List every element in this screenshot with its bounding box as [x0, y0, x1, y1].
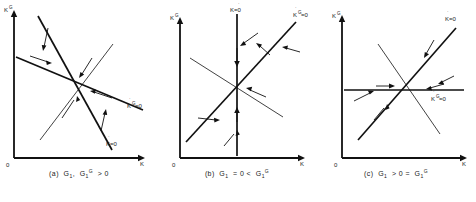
arrow-left-shaft	[30, 56, 48, 62]
arrow-top-shaft	[244, 33, 258, 43]
label-kgdot-zero-b: · K G =0	[293, 5, 309, 18]
arrow-down-head	[234, 61, 240, 67]
curve-kgdot-zero	[16, 57, 143, 110]
arrow-right-shaft	[430, 84, 444, 88]
arrow-up-head	[234, 107, 240, 113]
panel-c-plot: K G K 0	[316, 0, 476, 170]
svg-text:K: K	[127, 103, 131, 109]
y-axis-label-sup: G	[9, 5, 13, 10]
label-kdot-zero-a: · K=0	[106, 134, 118, 147]
panel-c-arrows	[354, 40, 454, 120]
caption-sub1: 1	[225, 173, 228, 179]
svg-text:·: ·	[238, 1, 240, 6]
panel-a: K G K 0	[0, 0, 158, 202]
arrow-left-head	[46, 60, 52, 65]
caption-sup2: G	[265, 168, 269, 174]
caption-sep: ,	[73, 170, 75, 177]
y-axis-label: K	[332, 13, 336, 19]
svg-text:K=0: K=0	[106, 141, 118, 147]
svg-text:K: K	[293, 12, 297, 18]
caption-relation: > 0	[98, 170, 109, 177]
panel-a-plot: K G K 0	[0, 0, 158, 170]
curve-kgdot-zero	[186, 22, 296, 142]
svg-text:=0: =0	[135, 103, 143, 109]
svg-text:K: K	[431, 96, 435, 102]
arrow-upper-head	[42, 45, 47, 51]
arrow-center-right-shaft	[250, 90, 266, 97]
arrow-bottom-shaft	[224, 134, 234, 146]
svg-text:K=0: K=0	[445, 16, 457, 22]
panel-b-arrows	[198, 33, 300, 146]
panel-a-axes	[11, 10, 145, 161]
svg-text:·: ·	[447, 9, 449, 14]
arrow-right-down-head	[438, 80, 444, 84]
phase-diagram-figure: K G K 0	[0, 0, 476, 202]
panel-c: K G K 0	[316, 0, 476, 202]
caption-prefix: (a)	[49, 170, 59, 177]
y-axis-arrowhead	[11, 10, 17, 17]
svg-text:=0: =0	[439, 96, 447, 102]
y-axis-label: K	[4, 7, 8, 13]
caption-sup2: G	[424, 168, 428, 174]
panel-c-caption: (c) G1 > 0 = G1G	[316, 168, 476, 179]
label-kdot-zero-b: · K=0	[230, 1, 242, 13]
y-axis-arrowhead	[339, 15, 345, 22]
arrow-upper-head	[424, 52, 429, 58]
label-kdot-zero-c: · K=0	[445, 9, 457, 22]
caption-prefix: (c)	[364, 170, 373, 177]
caption-sup2: G	[89, 168, 93, 174]
arrow-saddle-in-head	[76, 96, 80, 102]
x-axis-label: K	[140, 161, 144, 167]
svg-text:·: ·	[433, 89, 435, 94]
svg-text:·: ·	[129, 96, 131, 101]
panel-a-caption: (a) G1, G1G > 0	[0, 168, 158, 179]
arrow-lower-head	[103, 109, 108, 115]
y-axis-label-sup: G	[337, 11, 341, 16]
y-axis-label: K	[170, 15, 174, 21]
arrow-right-head	[90, 89, 96, 93]
arrow-left-head	[214, 118, 220, 123]
panel-b-plot: K G K 0	[158, 0, 316, 170]
svg-text:·: ·	[108, 134, 110, 139]
arrow-lower-shaft	[374, 108, 384, 120]
x-axis-label: K	[300, 161, 304, 167]
svg-text:K=0: K=0	[230, 7, 242, 13]
y-axis-arrowhead	[177, 17, 183, 24]
x-axis-label: K	[462, 161, 466, 167]
panel-b-caption: (b) G1 = 0 < G1G	[158, 168, 316, 179]
arrow-lower-shaft	[101, 113, 105, 131]
arrow-upper-right-shaft	[260, 46, 270, 55]
label-kgdot-zero-c: · K G =0	[431, 89, 447, 102]
panel-b: K G K 0	[158, 0, 316, 202]
arrow-upper-shaft	[426, 40, 434, 54]
caption-sub1: 1	[384, 173, 387, 179]
panel-b-axes	[177, 17, 305, 161]
arrow-left-head	[389, 83, 395, 88]
svg-text:=0: =0	[301, 12, 309, 18]
svg-text:·: ·	[295, 5, 297, 10]
caption-relation: = 0 <	[233, 170, 251, 177]
arrow-right-head	[282, 45, 288, 49]
arrow-left-up-shaft	[354, 93, 370, 101]
label-kgdot-zero-a: · K G =0	[127, 96, 143, 109]
arrow-right-shaft	[286, 48, 300, 52]
caption-relation: > 0 =	[392, 170, 410, 177]
arrow-saddle-in2-head	[79, 72, 84, 78]
caption-prefix: (b)	[205, 170, 215, 177]
arrow-right-down-shaft	[442, 76, 454, 82]
y-axis-label-sup: G	[175, 13, 179, 18]
arrow-saddle-in2-shaft	[82, 58, 92, 74]
